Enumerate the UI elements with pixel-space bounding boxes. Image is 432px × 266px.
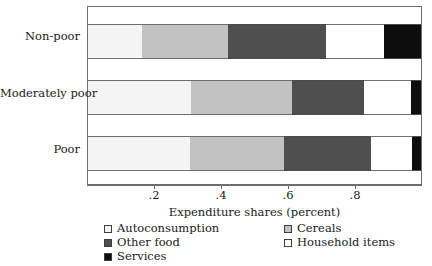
legend-swatch-icon — [284, 239, 292, 247]
legend-column-left: AutoconsumptionOther foodServices — [104, 222, 219, 264]
bar-segment-household-items — [364, 80, 411, 115]
x-axis-title: Expenditure shares (percent) — [87, 205, 422, 219]
bar-segment-cereals — [191, 80, 293, 115]
x-axis-tick-label: .8 — [340, 190, 370, 202]
legend-item: Autoconsumption — [104, 222, 219, 236]
stacked-bar-chart-figure: Non-poor Moderately poor Poor .2.4.6.8 E… — [0, 0, 432, 266]
y-axis-tick-label-moderately-poor: Moderately poor — [0, 86, 80, 100]
legend-item-label: Cereals — [297, 223, 341, 235]
bar-segment-services — [411, 80, 421, 115]
x-axis-line — [87, 185, 422, 186]
bar-segment-autoconsumption — [88, 24, 142, 59]
legend-item: Household items — [284, 236, 395, 250]
bar-segment-household-items — [371, 136, 413, 171]
bar-segment-autoconsumption — [88, 80, 191, 115]
bar-segment-services — [412, 136, 421, 171]
legend-item-label: Services — [117, 251, 167, 263]
legend-column-right: CerealsHousehold items — [284, 222, 395, 250]
legend-swatch-icon — [284, 225, 292, 233]
plot-area — [87, 6, 422, 185]
legend-item: Cereals — [284, 222, 395, 236]
legend-swatch-icon — [104, 253, 112, 261]
y-axis-tick-label-non-poor: Non-poor — [4, 29, 80, 43]
bar-row-moderately-poor — [88, 80, 421, 115]
legend-swatch-icon — [104, 225, 112, 233]
legend-item: Other food — [104, 236, 219, 250]
legend-item-label: Other food — [117, 237, 180, 249]
legend-item: Services — [104, 250, 219, 264]
bar-segment-autoconsumption — [88, 136, 190, 171]
bar-segment-services — [384, 24, 421, 59]
bar-segment-cereals — [190, 136, 285, 171]
x-axis-tick-label: .4 — [206, 190, 236, 202]
y-axis-tick-label-poor: Poor — [4, 142, 80, 156]
bar-segment-other-food — [228, 24, 326, 59]
bar-segment-household-items — [326, 24, 385, 59]
x-axis-tick-label: .2 — [139, 190, 169, 202]
bar-row-poor — [88, 136, 421, 171]
bar-segment-cereals — [142, 24, 228, 59]
legend-item-label: Household items — [297, 237, 395, 249]
bar-segment-other-food — [292, 80, 364, 115]
bar-segment-other-food — [284, 136, 371, 171]
legend-swatch-icon — [104, 239, 112, 247]
bar-row-non-poor — [88, 24, 421, 59]
legend-item-label: Autoconsumption — [117, 223, 219, 235]
x-axis-tick-label: .6 — [273, 190, 303, 202]
